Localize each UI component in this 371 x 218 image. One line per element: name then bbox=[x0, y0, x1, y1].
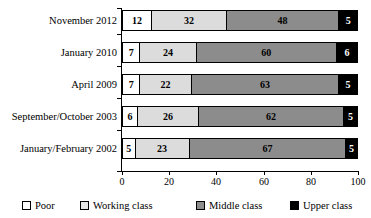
segment-working: 23 bbox=[135, 139, 189, 158]
x-axis-tick bbox=[216, 171, 217, 175]
segment-upper: 5 bbox=[345, 139, 357, 158]
segment-upper: 5 bbox=[338, 75, 357, 94]
x-axis-tick bbox=[311, 171, 312, 175]
y-axis-tick bbox=[117, 98, 122, 99]
segment-middle: 60 bbox=[196, 43, 336, 62]
legend-label-working-class: Working class bbox=[93, 200, 153, 211]
legend-label-upper-class: Upper class bbox=[303, 200, 352, 211]
x-axis-tick bbox=[264, 171, 265, 175]
table-row: 7 24 60 6 bbox=[122, 42, 358, 63]
stacked-bar-chart: November 2012 12 32 48 5 January 2010 7 … bbox=[0, 0, 371, 218]
x-axis-tick-label: 60 bbox=[259, 176, 269, 187]
category-label-2: April 2009 bbox=[0, 74, 117, 95]
table-row: 7 22 63 5 bbox=[122, 74, 358, 95]
x-axis-tick bbox=[122, 171, 123, 175]
segment-poor: 7 bbox=[123, 43, 139, 62]
chart-row: September/October 2003 6 26 62 5 bbox=[0, 106, 371, 127]
legend-item-working-class: Working class bbox=[80, 200, 153, 211]
segment-working: 24 bbox=[139, 43, 195, 62]
y-axis-tick bbox=[117, 34, 122, 35]
legend-label-middle-class: Middle class bbox=[209, 200, 262, 211]
chart-row: January/February 2002 5 23 67 5 bbox=[0, 138, 371, 159]
legend-swatch-working-icon bbox=[80, 201, 89, 210]
chart-row: January 2010 7 24 60 6 bbox=[0, 42, 371, 63]
table-row: 12 32 48 5 bbox=[122, 10, 358, 31]
segment-middle: 67 bbox=[189, 139, 346, 158]
chart-legend: Poor Working class Middle class Upper cl… bbox=[0, 195, 371, 215]
table-row: 6 26 62 5 bbox=[122, 106, 358, 127]
segment-working: 32 bbox=[151, 11, 226, 30]
category-label-4: January/February 2002 bbox=[0, 138, 117, 159]
legend-item-poor: Poor bbox=[22, 200, 55, 211]
x-axis-tick bbox=[358, 171, 359, 175]
segment-poor: 12 bbox=[123, 11, 151, 30]
table-row: 5 23 67 5 bbox=[122, 138, 358, 159]
legend-swatch-upper-icon bbox=[290, 201, 299, 210]
x-axis-tick bbox=[169, 171, 170, 175]
y-axis-tick bbox=[117, 66, 122, 67]
x-axis-tick-label: 20 bbox=[164, 176, 174, 187]
segment-upper: 5 bbox=[343, 107, 357, 126]
segment-upper: 5 bbox=[338, 11, 357, 30]
segment-poor: 6 bbox=[123, 107, 137, 126]
segment-poor: 7 bbox=[123, 75, 139, 94]
x-axis-tick-label: 100 bbox=[351, 176, 366, 187]
segment-working: 22 bbox=[139, 75, 190, 94]
segment-middle: 48 bbox=[226, 11, 338, 30]
legend-swatch-poor-icon bbox=[22, 201, 31, 210]
segment-upper: 6 bbox=[336, 43, 357, 62]
segment-middle: 63 bbox=[191, 75, 338, 94]
x-axis-tick-label: 40 bbox=[211, 176, 221, 187]
x-axis-line bbox=[121, 171, 359, 172]
y-axis-line bbox=[121, 8, 122, 171]
legend-item-upper-class: Upper class bbox=[290, 200, 352, 211]
legend-item-middle-class: Middle class bbox=[196, 200, 262, 211]
chart-row: November 2012 12 32 48 5 bbox=[0, 10, 371, 31]
y-axis-tick bbox=[117, 130, 122, 131]
legend-swatch-middle-icon bbox=[196, 201, 205, 210]
segment-working: 26 bbox=[137, 107, 198, 126]
x-axis-tick-label: 0 bbox=[120, 176, 125, 187]
category-label-3: September/October 2003 bbox=[0, 106, 117, 127]
category-label-1: January 2010 bbox=[0, 42, 117, 63]
segment-poor: 5 bbox=[123, 139, 135, 158]
x-axis-tick-label: 80 bbox=[306, 176, 316, 187]
y-axis-tick bbox=[117, 8, 122, 9]
chart-row: April 2009 7 22 63 5 bbox=[0, 74, 371, 95]
segment-middle: 62 bbox=[198, 107, 343, 126]
legend-label-poor: Poor bbox=[35, 200, 55, 211]
category-label-0: November 2012 bbox=[0, 10, 117, 31]
